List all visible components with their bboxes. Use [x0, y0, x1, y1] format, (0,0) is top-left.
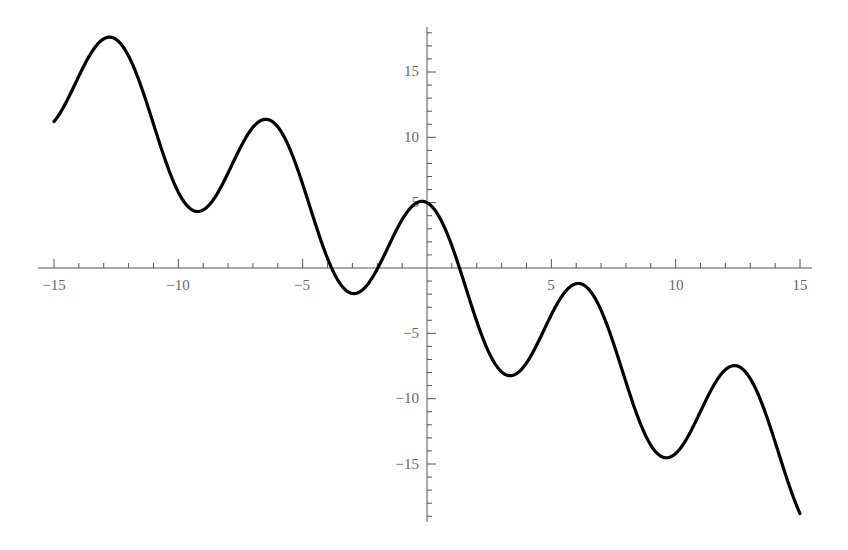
x-tick-label: 10 [669, 277, 684, 293]
y-tick-label: −15 [396, 456, 419, 472]
x-tick-label: −5 [294, 277, 310, 293]
y-tick-label: 15 [404, 63, 419, 79]
y-tick-label: −10 [396, 390, 419, 406]
y-tick-label: −5 [403, 325, 419, 341]
x-tick-labels: −15 −10 −5 5 10 15 [42, 277, 807, 293]
line-chart: −15 −10 −5 5 10 15 15 10 5 −5 −10 −15 [0, 0, 848, 550]
x-tick-label: −10 [166, 277, 189, 293]
x-tick-label: −15 [42, 277, 65, 293]
x-tick-label: 5 [547, 277, 555, 293]
y-tick-label: 10 [404, 129, 419, 145]
x-tick-label: 15 [793, 277, 808, 293]
